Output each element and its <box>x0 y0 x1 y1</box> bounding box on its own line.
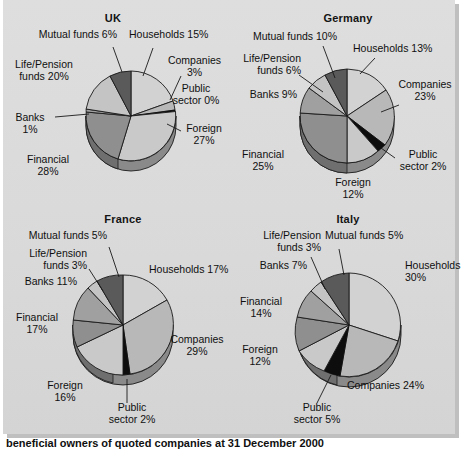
label-uk-life-pension: Life/Pension funds 20% <box>5 58 83 82</box>
label-france-life-pension: Life/Pension funds 3% <box>7 247 87 271</box>
leader-france-mutual-funds <box>109 247 119 277</box>
figure-plate: UK <box>3 0 455 434</box>
figure-root: UK <box>0 0 471 450</box>
chart-france: France <box>3 207 229 434</box>
label-italy-life-pension: Life/Pension funds 3% <box>229 229 321 253</box>
label-germany-mutual-funds: Mutual funds 10% <box>229 30 337 42</box>
pie-germany-slice-financial <box>300 113 347 163</box>
label-france-financial: Financial 17% <box>5 311 69 335</box>
label-france-public-sector: Public sector 2% <box>99 401 165 425</box>
leader-uk-households <box>143 48 153 76</box>
label-italy-public-sector: Public sector 5% <box>283 401 351 425</box>
figure-panel: UK <box>3 0 455 434</box>
label-italy-households: Households 30% <box>405 259 455 283</box>
label-italy-companies: Companies 24% <box>347 379 455 391</box>
label-italy-foreign: Foreign 12% <box>231 343 289 367</box>
chart-germany: Germany <box>229 0 455 212</box>
chart-uk: UK <box>3 0 229 212</box>
label-uk-mutual-funds: Mutual funds 6% <box>19 28 117 40</box>
label-france-foreign: Foreign 16% <box>37 379 93 403</box>
chart-italy: Italy <box>229 207 455 434</box>
label-italy-financial: Financial 14% <box>229 295 293 319</box>
label-france-banks: Banks 11% <box>3 275 77 287</box>
label-france-companies: Companies 29% <box>165 333 229 357</box>
label-germany-financial: Financial 25% <box>231 148 295 172</box>
label-germany-life-pension: Life/Pension funds 6% <box>229 52 301 76</box>
leader-germany-households <box>360 58 375 74</box>
leader-italy-mutual-funds <box>339 249 344 275</box>
label-uk-households: Households 15% <box>129 28 229 40</box>
label-uk-foreign: Foreign 27% <box>179 122 229 146</box>
label-germany-foreign: Foreign 12% <box>327 176 379 200</box>
label-uk-financial: Financial 28% <box>15 153 81 177</box>
label-italy-banks: Banks 7% <box>229 259 307 271</box>
label-uk-companies: Companies 3% <box>160 54 229 78</box>
label-germany-companies: Companies 23% <box>395 78 455 102</box>
label-france-mutual-funds: Mutual funds 5% <box>9 229 107 241</box>
label-germany-public-sector: Public sector 2% <box>391 148 455 172</box>
label-germany-banks: Banks 9% <box>229 88 297 100</box>
label-uk-banks: Banks 1% <box>7 111 53 135</box>
label-germany-households: Households 13% <box>353 42 455 54</box>
leader-uk-mutual-funds <box>113 47 122 72</box>
leader-uk-banks <box>55 114 89 117</box>
figure-caption: beneficial owners of quoted companies at… <box>6 437 466 449</box>
label-italy-mutual-funds: Mutual funds 5% <box>325 229 443 241</box>
label-uk-public-sector: Public sector 0% <box>163 82 229 106</box>
